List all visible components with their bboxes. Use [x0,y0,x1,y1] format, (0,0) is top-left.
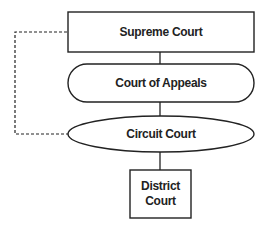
edge-supreme-circuit-dashed [15,32,68,134]
district-court-label: District Court [130,170,191,218]
court-of-appeals-label: Court of Appeals [68,64,254,102]
supreme-court-label: Supreme Court [68,12,254,52]
circuit-court-label: Circuit Court [68,116,254,152]
